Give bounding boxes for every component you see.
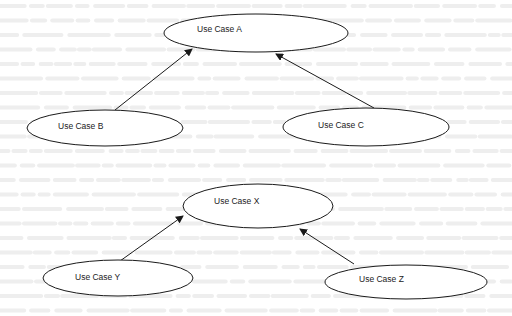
arrow-z-to-x (300, 229, 354, 264)
use-case-b-ellipse (27, 110, 183, 146)
use-case-a-ellipse (164, 14, 348, 52)
use-case-c-label: Use Case C (318, 120, 364, 130)
use-case-a[interactable]: Use Case A (164, 14, 348, 52)
use-case-b-label: Use Case B (58, 121, 104, 131)
use-case-y-label: Use Case Y (75, 272, 121, 282)
arrow-y-to-x (120, 216, 183, 261)
use-case-z[interactable]: Use Case Z (325, 265, 487, 299)
use-case-y[interactable]: Use Case Y (43, 260, 193, 296)
arrow-c-to-a (276, 54, 374, 108)
use-case-c-ellipse (283, 108, 449, 146)
arrow-b-to-a (115, 49, 192, 110)
use-case-x[interactable]: Use Case X (183, 184, 333, 228)
use-case-x-ellipse (183, 184, 333, 228)
use-case-z-ellipse (325, 265, 487, 299)
use-case-c[interactable]: Use Case C (283, 108, 449, 146)
use-case-b[interactable]: Use Case B (27, 110, 183, 146)
use-case-x-label: Use Case X (214, 196, 260, 206)
use-case-a-label: Use Case A (197, 24, 242, 34)
use-case-diagram: Use Case A Use Case B Use Case C Use Cas… (0, 0, 512, 316)
use-case-z-label: Use Case Z (359, 274, 404, 284)
